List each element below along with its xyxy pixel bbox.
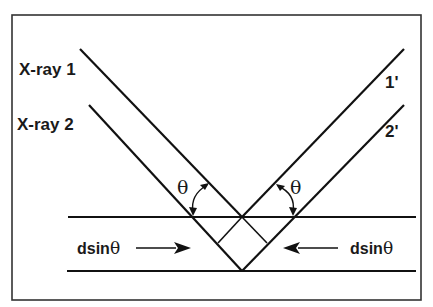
dsin-arrow-right-head xyxy=(283,242,300,254)
dsin-right-prefix: dsin xyxy=(350,240,383,257)
dsin-left-prefix: dsin xyxy=(77,240,110,257)
label-dsin-theta-right: dsinθ xyxy=(350,238,393,258)
bragg-diffraction-diagram: X-ray 1 X-ray 2 1' 2' θ θ dsinθ dsinθ xyxy=(0,0,433,307)
dsin-right-theta: θ xyxy=(383,238,393,258)
dsin-arrow-left-head xyxy=(174,242,191,254)
perpendicular-left xyxy=(218,217,242,243)
incident-ray-1 xyxy=(80,49,242,217)
dsin-left-theta: θ xyxy=(110,238,120,258)
label-theta-right: θ xyxy=(290,176,301,198)
label-reflected-2: 2' xyxy=(385,122,399,141)
label-reflected-1: 1' xyxy=(385,73,399,92)
reflected-ray-1 xyxy=(242,49,404,217)
perpendicular-right xyxy=(242,217,267,243)
label-theta-left: θ xyxy=(177,176,188,198)
label-dsin-theta-left: dsinθ xyxy=(77,238,120,258)
label-xray-2: X-ray 2 xyxy=(17,115,74,134)
label-xray-1: X-ray 1 xyxy=(19,60,76,79)
diagram-frame xyxy=(12,15,421,300)
